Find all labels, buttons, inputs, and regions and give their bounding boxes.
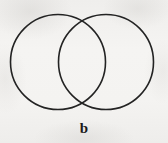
figure-caption-label: b bbox=[0, 120, 168, 136]
figure-container: b bbox=[0, 0, 168, 143]
